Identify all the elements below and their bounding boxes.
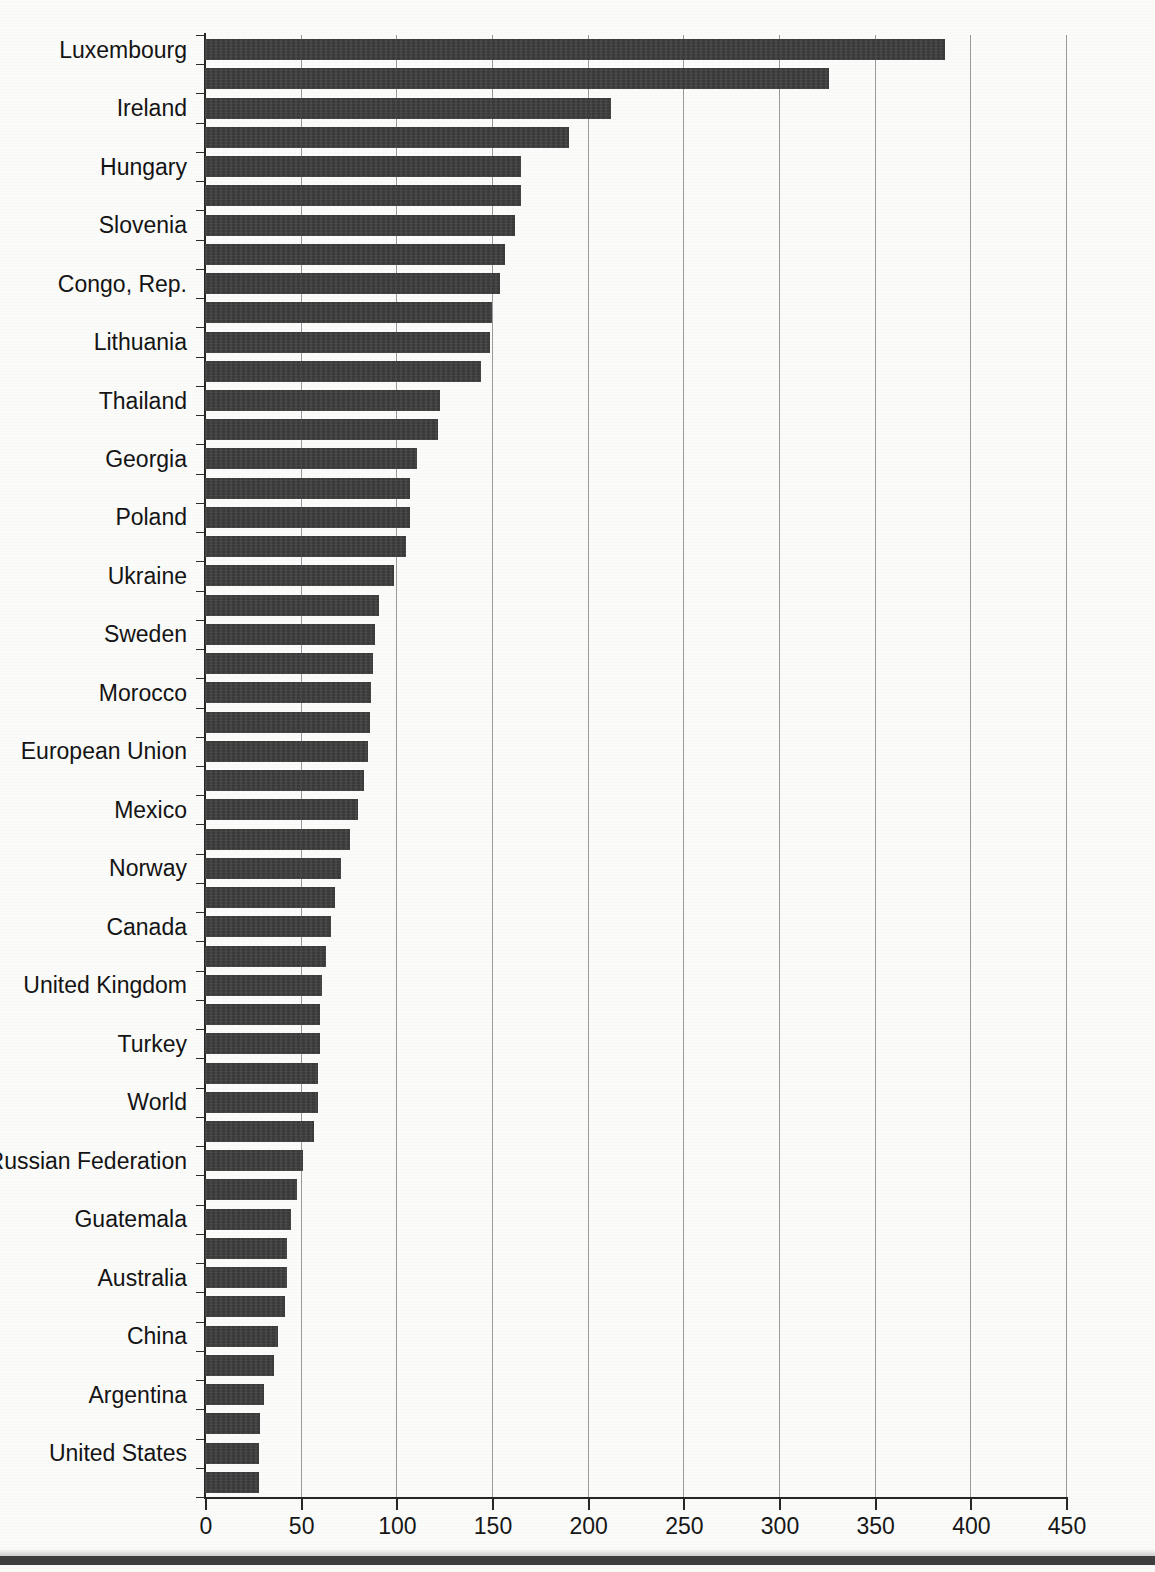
x-axis-tick <box>301 1499 303 1510</box>
bar <box>205 653 373 674</box>
y-axis-tick <box>196 1380 205 1381</box>
bar <box>205 624 375 645</box>
x-axis-tick <box>683 1499 685 1510</box>
bar <box>205 799 358 820</box>
y-axis-label: Morocco <box>99 679 187 706</box>
y-axis-tick <box>196 269 205 270</box>
page-bottom-edge <box>0 1556 1155 1565</box>
y-axis-tick <box>196 824 205 825</box>
y-axis-tick <box>196 708 205 709</box>
bar <box>205 244 505 265</box>
y-axis-label: Ireland <box>117 95 187 122</box>
y-axis-tick <box>196 678 205 679</box>
bar <box>205 390 440 411</box>
bar <box>205 419 438 440</box>
y-axis-tick <box>196 941 205 942</box>
bar <box>205 975 322 996</box>
y-axis-label: Slovenia <box>99 212 187 239</box>
gridline <box>779 35 780 1497</box>
y-axis-tick <box>196 1234 205 1235</box>
bar <box>205 1267 287 1288</box>
y-axis-tick <box>196 1058 205 1059</box>
y-axis-label: China <box>127 1323 187 1350</box>
x-axis-tick-label: 300 <box>761 1513 799 1540</box>
bar <box>205 332 490 353</box>
y-axis-tick <box>196 1292 205 1293</box>
y-axis-label: Turkey <box>118 1030 187 1057</box>
y-axis-label: United Kingdom <box>23 972 187 999</box>
bar <box>205 858 341 879</box>
y-axis-tick <box>196 35 205 36</box>
y-axis-tick <box>196 357 205 358</box>
y-axis-tick <box>196 854 205 855</box>
y-axis-tick <box>196 1468 205 1469</box>
y-axis-tick <box>196 737 205 738</box>
bar <box>205 127 569 148</box>
x-axis-tick <box>492 1499 494 1510</box>
bar <box>205 536 406 557</box>
y-axis-tick <box>196 386 205 387</box>
y-axis-tick <box>196 766 205 767</box>
x-axis-tick <box>1066 1499 1068 1510</box>
bar <box>205 887 335 908</box>
horizontal-bar-chart: LuxembourgIrelandHungarySloveniaCongo, R… <box>0 0 1155 1572</box>
bar <box>205 1179 297 1200</box>
y-axis-tick <box>196 883 205 884</box>
y-axis-tick <box>196 1088 205 1089</box>
bar <box>205 595 379 616</box>
y-axis-tick <box>196 1117 205 1118</box>
y-axis-label: Canada <box>106 913 187 940</box>
bar <box>205 68 829 89</box>
x-axis-tick <box>970 1499 972 1510</box>
y-axis-tick <box>196 474 205 475</box>
y-axis-tick <box>196 1029 205 1030</box>
y-axis-tick <box>196 649 205 650</box>
y-axis-tick <box>196 1205 205 1206</box>
bar <box>205 1355 274 1376</box>
bar <box>205 1238 287 1259</box>
y-axis-label: Mexico <box>114 796 187 823</box>
bar <box>205 1472 259 1493</box>
bar <box>205 712 370 733</box>
bar <box>205 448 417 469</box>
bar <box>205 916 331 937</box>
x-axis-tick-label: 450 <box>1048 1513 1086 1540</box>
y-axis-tick <box>196 591 205 592</box>
gridline <box>875 35 876 1497</box>
y-axis-tick <box>196 1146 205 1147</box>
bar <box>205 1004 320 1025</box>
x-axis-tick-label: 150 <box>474 1513 512 1540</box>
y-axis-tick-labels: LuxembourgIrelandHungarySloveniaCongo, R… <box>0 0 195 1572</box>
bar <box>205 507 410 528</box>
bar <box>205 1326 278 1347</box>
x-axis-tick <box>205 1499 207 1510</box>
y-axis-tick <box>196 240 205 241</box>
x-axis-tick <box>588 1499 590 1510</box>
y-axis-label: Poland <box>115 504 187 531</box>
bar <box>205 361 481 382</box>
y-axis-label: Argentina <box>89 1381 187 1408</box>
gridline <box>970 35 971 1497</box>
y-axis-tick <box>196 1175 205 1176</box>
bar <box>205 185 521 206</box>
bar <box>205 770 364 791</box>
x-axis-tick-label: 250 <box>665 1513 703 1540</box>
bar <box>205 682 371 703</box>
bar <box>205 1150 303 1171</box>
y-axis-label: European Union <box>21 738 187 765</box>
bar <box>205 1092 318 1113</box>
bar <box>205 1384 264 1405</box>
y-axis-tick <box>196 532 205 533</box>
gridline <box>588 35 589 1497</box>
y-axis-tick <box>196 93 205 94</box>
plot-area <box>205 35 1066 1497</box>
y-axis-label: Georgia <box>105 445 187 472</box>
y-axis-tick <box>196 1322 205 1323</box>
bar <box>205 1209 291 1230</box>
page-edge-shadow <box>0 1549 1155 1556</box>
y-axis-tick <box>196 561 205 562</box>
bar <box>205 1296 285 1317</box>
y-axis-label: Luxembourg <box>59 36 187 63</box>
y-axis-label: Sweden <box>104 621 187 648</box>
y-axis-tick <box>196 1351 205 1352</box>
